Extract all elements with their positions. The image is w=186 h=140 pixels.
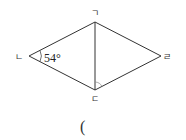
angle-arc-left: [40, 51, 41, 62]
edge-right-top: [95, 22, 161, 56]
edge-bottom-right: [95, 56, 161, 90]
edge-left-bottom: [29, 56, 95, 90]
vertex-label-bottom: ㄷ: [91, 94, 99, 104]
vertex-label-top: ㄱ: [91, 8, 99, 18]
angle-label: 54°: [44, 51, 61, 65]
vertex-label-left: ㄴ: [15, 52, 23, 62]
vertex-label-right: ㄹ: [163, 52, 171, 62]
answer-open-paren: (: [80, 118, 85, 136]
angle-arc-bottom: [95, 82, 102, 87]
rhombus-diagram: ㄱ ㄴ ㄷ ㄹ 54° (: [0, 0, 186, 140]
edge-top-left: [29, 22, 95, 56]
